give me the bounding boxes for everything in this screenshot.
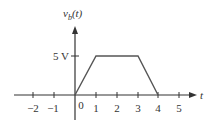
- ytick-label: 5 V: [53, 50, 69, 62]
- xtick-label: 1: [93, 102, 99, 114]
- xtick-label: 4: [155, 102, 161, 114]
- x-axis-arrow-icon: [189, 92, 197, 98]
- waveform-diagram: −2 −1 0 1 2 3 4 5 5 V t vb(t): [0, 0, 212, 126]
- xtick-label: −1: [47, 102, 59, 114]
- xtick-label: 2: [114, 102, 120, 114]
- y-label-arg: (t): [72, 7, 83, 20]
- xtick-label: −2: [27, 102, 39, 114]
- waveform-trace: [75, 56, 158, 95]
- xtick-label: 3: [135, 102, 141, 114]
- xtick-label: 5: [176, 102, 182, 114]
- y-axis-label: vb(t): [63, 7, 83, 22]
- xtick-label: 0: [78, 99, 84, 111]
- x-axis-label: t: [200, 89, 204, 101]
- y-axis-arrow-icon: [72, 26, 78, 34]
